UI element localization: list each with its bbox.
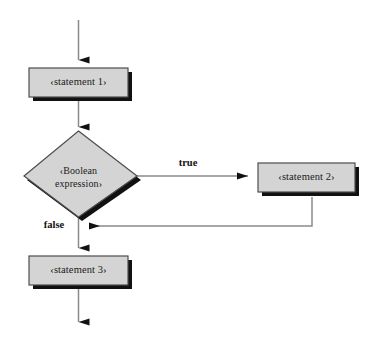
statement1-body <box>29 68 128 97</box>
node-statement3[interactable] <box>29 256 132 289</box>
flowchart-canvas: statement 2 --> statement 3 --> <box>0 0 373 338</box>
flowchart-diagram-svg: statement 2 --> statement 3 --> <box>0 0 373 338</box>
node-statement2[interactable] <box>258 163 359 196</box>
edge-label-false: false <box>34 219 74 230</box>
statement3-body <box>29 256 128 285</box>
statement2-body <box>258 163 355 192</box>
condition-body <box>24 131 137 217</box>
node-condition[interactable] <box>24 131 141 221</box>
node-statement1[interactable] <box>29 68 132 101</box>
edge-label-true: true <box>163 157 213 168</box>
connector-statement2-return <box>89 197 312 226</box>
